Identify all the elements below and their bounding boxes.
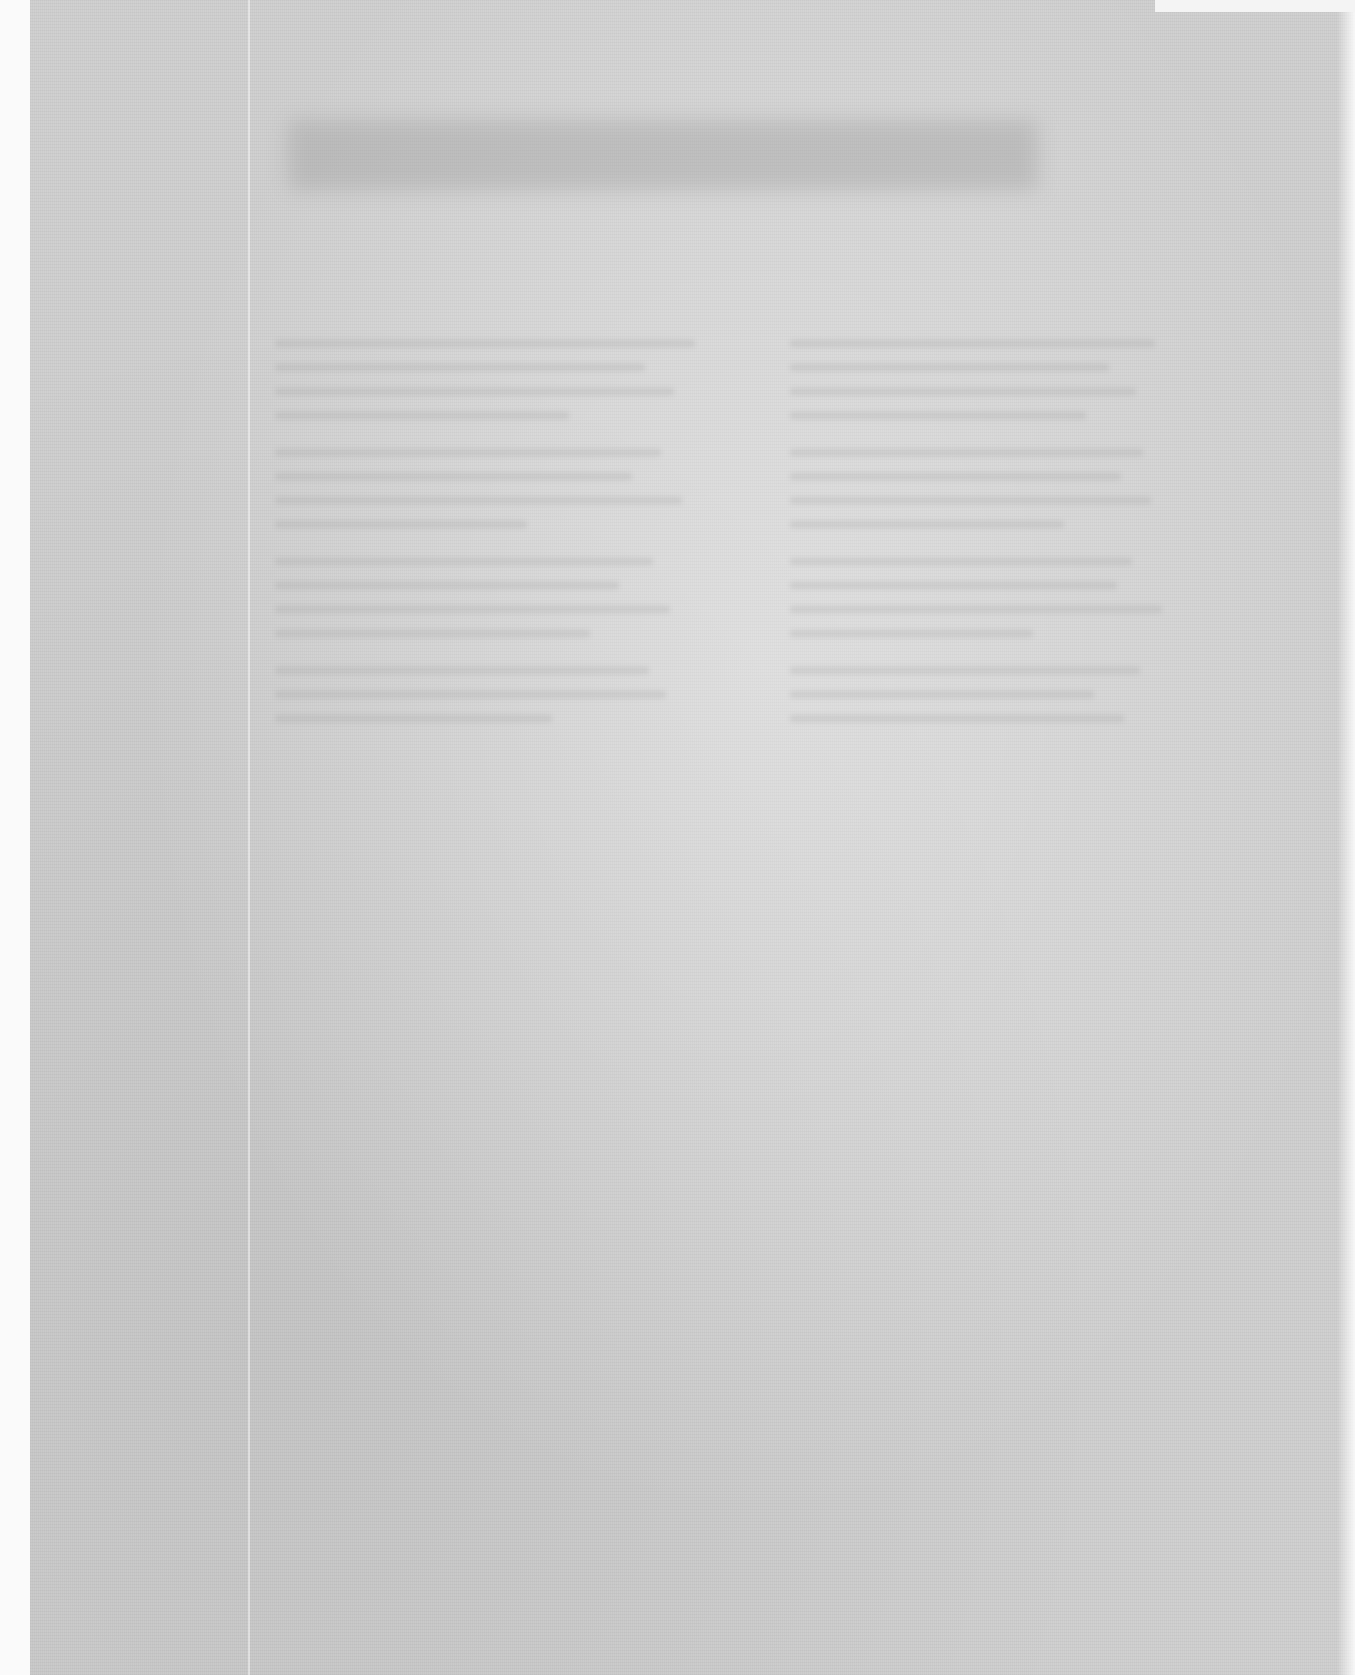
ghost-text-line — [275, 691, 666, 698]
ghost-text-line — [790, 364, 1109, 371]
ghost-text-line — [275, 449, 661, 456]
ghost-text-line — [275, 582, 619, 589]
ghost-text-line — [790, 521, 1064, 528]
document-page — [30, 0, 1355, 1675]
ghost-text-line — [275, 497, 682, 504]
ghost-text-line — [275, 630, 590, 637]
ghost-text-line — [275, 715, 552, 722]
ghost-text-line — [790, 630, 1033, 637]
top-margin — [1155, 0, 1355, 12]
ghost-text-line — [275, 340, 695, 347]
ghost-text-line — [790, 473, 1121, 480]
ghost-text-line — [790, 691, 1094, 698]
scanned-document — [0, 0, 1355, 1675]
body-column-left — [275, 340, 695, 739]
ghost-text-line — [790, 449, 1143, 456]
ghost-text-line — [275, 388, 674, 395]
ghost-text-line — [790, 606, 1162, 613]
page-fold-line — [248, 0, 250, 1675]
body-column-right — [790, 340, 1170, 739]
left-margin — [0, 0, 30, 1675]
ghost-text-line — [790, 715, 1124, 722]
ghost-text-line — [275, 521, 527, 528]
right-page-edge — [1337, 12, 1355, 1675]
ghost-text-line — [275, 412, 569, 419]
ghost-text-line — [790, 667, 1140, 674]
ghost-text-line — [790, 497, 1151, 504]
ghost-text-line — [275, 667, 649, 674]
ghost-text-line — [275, 558, 653, 565]
ghost-text-line — [275, 364, 645, 371]
ghost-text-line — [275, 606, 670, 613]
ghost-text-line — [790, 412, 1086, 419]
title-band — [288, 120, 1038, 190]
ghost-text-line — [275, 473, 632, 480]
ghost-text-line — [790, 558, 1132, 565]
ghost-text-line — [790, 388, 1136, 395]
ghost-text-line — [790, 340, 1155, 347]
ghost-text-line — [790, 582, 1117, 589]
